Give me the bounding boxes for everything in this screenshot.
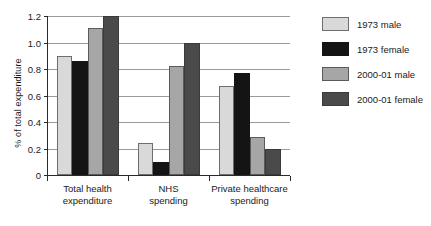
plot-area: 00.20.40.60.81.01.2 [47,16,290,175]
x-axis-category-label-line: expenditure [63,195,113,207]
legend-label: 1973 female [357,44,409,55]
bar [234,73,250,175]
y-tick-label: 0.8 [17,64,41,75]
x-axis-tick [290,176,291,181]
legend-swatch-icon [322,67,349,81]
legend-item: 2000-01 male [322,63,431,85]
legend-swatch-icon [322,42,349,56]
bar [57,56,73,175]
y-tick-mark [44,149,48,150]
legend-label: 2000-01 female [357,94,423,105]
x-axis-category-label-line: Total health [63,183,113,195]
y-tick-mark [44,16,48,17]
bar [88,28,104,175]
y-tick-label: 0 [17,170,41,181]
bar-chart: % of total expenditure 00.20.40.60.81.01… [0,0,431,226]
y-tick-label: 0.2 [17,143,41,154]
x-axis-category-label-line: spending [211,195,288,207]
bar [250,137,266,175]
y-tick-label: 0.6 [17,90,41,101]
bar [153,162,169,175]
x-axis-category-label: Total healthexpenditure [63,183,113,206]
legend-label: 2000-01 male [357,69,415,80]
legend-item: 1973 female [322,38,431,60]
gridline [47,43,290,44]
x-axis-category-label-line: NHS [149,183,188,195]
y-tick-mark [44,43,48,44]
legend: 1973 male1973 female2000-01 male2000-01 … [322,13,431,113]
x-axis-tick [47,176,48,181]
y-tick-label: 0.4 [17,117,41,128]
bar [169,66,185,175]
bar [72,61,88,175]
x-axis-category-label-line: spending [149,195,188,207]
gridline [47,16,290,17]
axis-baseline [47,175,290,176]
legend-item: 2000-01 female [322,88,431,110]
y-tick-mark [44,69,48,70]
y-tick-label: 1.2 [17,11,41,22]
legend-label: 1973 male [357,19,401,30]
bar [265,149,281,176]
y-tick-mark [44,96,48,97]
bar [103,16,119,175]
legend-swatch-icon [322,92,349,106]
x-axis-category-label: NHSspending [149,183,188,206]
x-axis-category-label: Private healthcarespending [211,183,288,206]
bar [138,143,154,175]
x-axis-tick [209,176,210,181]
x-axis-category-label-line: Private healthcare [211,183,288,195]
legend-swatch-icon [322,17,349,31]
y-tick-mark [44,122,48,123]
bar [184,43,200,176]
legend-item: 1973 male [322,13,431,35]
y-tick-label: 1.0 [17,37,41,48]
x-axis-tick [128,176,129,181]
bar [219,86,235,175]
